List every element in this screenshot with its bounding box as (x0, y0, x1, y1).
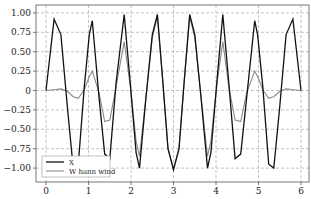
legend: X W hann wind (42, 156, 116, 177)
y-tick-label: −0.75 (3, 144, 31, 154)
line-chart: 0123456 1.000.750.500.250−0.25−0.50−0.75… (0, 0, 311, 199)
x-tick-label: 2 (128, 186, 134, 196)
y-tick-label: −0.25 (3, 105, 31, 115)
y-tick-label: −0.50 (3, 124, 31, 134)
x-tick-label: 4 (213, 186, 219, 196)
y-axis-ticks: 1.000.750.500.250−0.25−0.50−0.75−1.00 (3, 8, 36, 173)
x-tick-label: 6 (298, 186, 304, 196)
y-tick-label: 0 (25, 86, 31, 96)
y-tick-label: 0.25 (11, 66, 31, 76)
legend-label-x: X (69, 159, 74, 167)
y-tick-label: 0.75 (11, 27, 31, 37)
x-axis-ticks: 0123456 (43, 182, 304, 196)
x-tick-label: 3 (171, 186, 177, 196)
y-tick-label: 0.50 (11, 47, 31, 57)
x-tick-label: 0 (43, 186, 49, 196)
x-tick-label: 5 (256, 186, 262, 196)
y-tick-label: −1.00 (3, 163, 31, 173)
y-tick-label: 1.00 (11, 8, 31, 18)
legend-label-w: W hann wind (69, 168, 116, 176)
x-tick-label: 1 (86, 186, 92, 196)
